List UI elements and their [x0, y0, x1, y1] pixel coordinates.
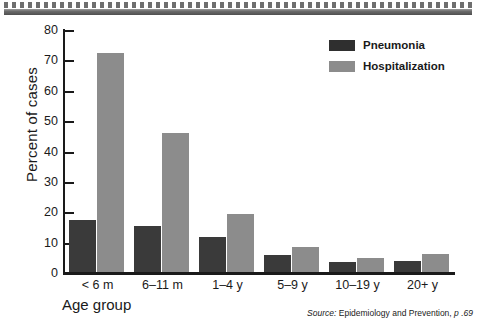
bar-hospitalization: [292, 247, 319, 272]
y-tick-label: 80: [28, 24, 58, 37]
y-tick-label: 0: [28, 267, 58, 280]
y-tick-label: 60: [28, 85, 58, 98]
bar-chart: Percent of cases 01020304050607080 < 6 m…: [0, 20, 479, 322]
bar-group: < 6 m: [65, 29, 130, 272]
x-axis-title: Age group: [62, 296, 131, 313]
x-axis-line: [63, 272, 455, 275]
x-tick-label: 20+ y: [390, 278, 455, 292]
legend-swatch-icon: [329, 40, 355, 51]
solid-rule: [4, 9, 472, 15]
legend-label: Hospitalization: [363, 60, 445, 72]
legend-label: Pneumonia: [363, 39, 425, 51]
bar-group: 6–11 m: [130, 29, 195, 272]
y-tick-label: 30: [28, 176, 58, 189]
legend-swatch-icon: [329, 61, 355, 72]
bar-hospitalization: [162, 133, 189, 272]
legend: Pneumonia Hospitalization: [329, 39, 445, 81]
bar-group: 5–9 y: [260, 29, 325, 272]
y-tick-label: 40: [28, 146, 58, 159]
source-prefix: Source:: [307, 308, 336, 318]
bar-pneumonia: [69, 220, 96, 272]
x-tick-label: 1–4 y: [195, 278, 260, 292]
dotted-rule: [4, 2, 472, 8]
x-tick-label: 5–9 y: [260, 278, 325, 292]
y-tick-label: 10: [28, 237, 58, 250]
legend-item-hospitalization: Hospitalization: [329, 60, 445, 72]
bar-pneumonia: [264, 255, 291, 272]
bar-pneumonia: [134, 226, 161, 272]
bar-hospitalization: [422, 254, 449, 272]
source-note: Source: Epidemiology and Prevention, p .…: [307, 308, 473, 318]
source-title: Epidemiology and Prevention,: [339, 308, 452, 318]
bar-hospitalization: [227, 214, 254, 272]
bar-group: 1–4 y: [195, 29, 260, 272]
x-tick-label: 6–11 m: [130, 278, 195, 292]
y-tick-label: 70: [28, 54, 58, 67]
legend-item-pneumonia: Pneumonia: [329, 39, 445, 51]
decorative-header-band: [4, 2, 472, 18]
bar-hospitalization: [357, 258, 384, 272]
y-tick-mark: [65, 273, 74, 275]
source-page: p .69: [454, 308, 473, 318]
y-tick-label: 20: [28, 206, 58, 219]
bar-hospitalization: [97, 53, 124, 272]
bar-pneumonia: [394, 261, 421, 272]
bar-pneumonia: [329, 262, 356, 272]
x-tick-label: < 6 m: [65, 278, 130, 292]
y-tick-label: 50: [28, 115, 58, 128]
bar-pneumonia: [199, 237, 226, 272]
x-tick-label: 10–19 y: [325, 278, 390, 292]
